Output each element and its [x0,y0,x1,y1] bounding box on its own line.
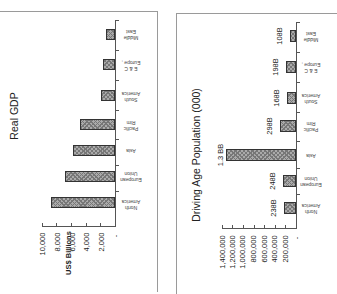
gdp-bar-south-america [101,90,115,101]
gdp-tick [56,223,57,227]
population-bar-north-america [284,202,296,214]
population-bar-ec-europe [286,61,296,73]
population-tick-label: 400,000 [270,235,279,262]
population-bar-asia [226,149,296,161]
population-data-label: 238B [269,199,278,217]
gdp-bar-pacific-rim [80,119,115,130]
gdp-cat-tick [115,50,119,51]
population-cat-label: EuropeanUnion [300,176,322,187]
gdp-cat-tick [115,110,119,111]
population-category-axis [296,22,297,229]
gdp-tick [100,223,101,227]
population-tick [264,225,265,229]
population-data-label: 1.3 BB [216,144,225,167]
population-data-label: 248B [268,172,277,190]
population-tick [243,225,244,229]
gdp-bar-middle-east [106,29,115,40]
population-bar-european-union [283,175,296,187]
gdp-chart-title: Real GDP [8,92,20,139]
gdp-cat-label: SouthAmerica [122,91,140,102]
population-cat-tick [296,112,300,113]
population-tick [232,225,233,229]
population-cat-tick [296,168,300,169]
population-cat-label: MiddleEast [304,31,319,42]
population-cat-label: PacificRim [304,121,319,132]
gdp-cat-tick [115,139,119,140]
population-data-label: 168B [272,89,281,107]
gdp-tick-label: 10,000 [38,233,47,256]
population-data-label: 198B [271,58,280,76]
gdp-tick [86,223,87,227]
gdp-cat-tick [115,80,119,81]
gdp-category-axis [115,20,116,227]
population-bar-middle-east [290,30,296,42]
population-bar-south-america [287,92,296,104]
gdp-cat-label: NorthAmerica [122,199,140,210]
population-tick-label: 600,000 [260,235,269,262]
population-tick-label: 800,000 [249,235,258,262]
gdp-cat-tick [115,191,119,192]
population-tick-label: - [292,237,301,240]
gdp-tick-label: 6,000 [68,233,77,252]
gdp-cat-label: PacificRim [124,120,139,131]
gdp-cat-tick [115,20,119,21]
gdp-cat-label: EuropeanUnion [120,171,142,182]
population-bar-pacific-rim [280,120,296,132]
population-tick [222,225,223,229]
population-tick [254,225,255,229]
population-cat-label: E & CEurope , [302,62,321,73]
gdp-tick [42,223,43,227]
population-tick-label: 200,000 [281,235,290,262]
population-chart-title: Driving Age Population (000) [190,88,202,222]
population-tick [275,225,276,229]
gdp-tick-label: 4,000 [82,233,91,252]
gdp-cat-tick [115,165,119,166]
gdp-bar-european-union [65,171,115,182]
population-cat-tick [296,82,300,83]
population-data-label: 108B [275,27,284,45]
population-cat-label: SouthAmerica [302,93,320,104]
population-cat-tick [296,141,300,142]
population-tick [285,225,286,229]
gdp-cat-label: Asia [126,147,136,153]
gdp-cat-label: MiddleEast [124,29,139,40]
population-cat-tick [296,52,300,53]
population-tick-label: 1,400,000 [218,235,227,268]
population-cat-label: NorthAmerica [302,203,320,214]
gdp-bar-asia [73,145,115,156]
population-cat-label: Asia [306,152,316,158]
gdp-tick-label: 8,000 [53,233,62,252]
gdp-cat-label: E & CEurope , [122,60,141,71]
population-data-label: 298B [265,117,274,135]
population-tick-label: 1,000,000 [238,235,247,268]
population-cat-tick [296,22,300,23]
population-tick-label: 1,200,000 [228,235,237,268]
gdp-tick [71,223,72,227]
population-cat-tick [296,194,300,195]
gdp-value-axis [42,226,115,227]
gdp-tick-label: - [111,235,120,238]
gdp-bar-north-america [51,197,115,208]
gdp-tick-label: 2,000 [97,233,106,252]
gdp-bar-ec-europe [103,59,115,70]
